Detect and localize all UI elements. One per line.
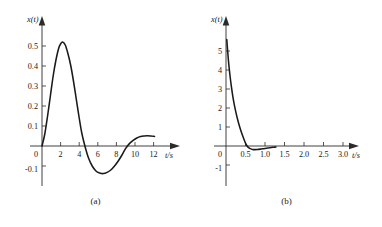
x-ticklabel-a-0: 2 [59, 150, 63, 159]
y-ticklabel-a-origin: 0 [34, 150, 38, 159]
y-ticklabel-a-neg: -0.1 [25, 165, 38, 174]
x-ticklabel-b-2: 1.5 [279, 150, 289, 159]
x-ticklabel-a-5: 12 [150, 150, 158, 159]
data-curve-b [227, 40, 276, 150]
x-ticklabel-a-3: 8 [114, 150, 118, 159]
x-ticklabel-a-4: 10 [131, 150, 139, 159]
x-ticklabel-b-3: 2.0 [299, 150, 309, 159]
x-ticklabel-b-1: 1.0 [260, 150, 270, 159]
y-ticklabel-b-origin: 0 [218, 150, 222, 159]
y-axis-arrowhead-b [223, 16, 230, 26]
y-ticklabel-b-3: 2 [218, 104, 222, 113]
x-ticklabel-b-4: 2.5 [318, 150, 328, 159]
plot-a: 0.5 0.4 0.3 0.2 0.1 0 -0.1 2 4 6 8 10 12… [0, 0, 191, 200]
panel-a: 0.5 0.4 0.3 0.2 0.1 0 -0.1 2 4 6 8 10 12… [0, 0, 191, 227]
y-ticklabel-b-neg: -1 [215, 164, 222, 173]
x-axis-label-a: t/s [165, 151, 173, 160]
x-axis-arrowhead-b [349, 143, 359, 150]
y-axis-label-b: x(t) [210, 15, 223, 24]
y-ticklabel-b-4: 1 [218, 123, 222, 132]
y-ticklabel-a-4: 0.1 [28, 122, 38, 131]
x-ticklabel-a-2: 6 [96, 150, 100, 159]
y-ticklabel-b-0: 5 [218, 47, 222, 56]
y-ticklabel-b-1: 4 [218, 66, 222, 75]
y-ticklabel-a-2: 0.3 [28, 82, 38, 91]
panel-caption-a: (a) [0, 196, 191, 206]
y-axis-arrowhead-a [39, 16, 46, 26]
y-ticklabel-a-0: 0.5 [28, 42, 38, 51]
x-ticklabel-a-1: 4 [77, 150, 81, 159]
x-axis-label-b: t/s [352, 151, 360, 160]
y-ticklabel-a-3: 0.2 [28, 102, 38, 111]
x-ticklabel-b-5: 3.0 [338, 150, 348, 159]
figure-two-panel-plots: 0.5 0.4 0.3 0.2 0.1 0 -0.1 2 4 6 8 10 12… [0, 0, 382, 227]
plot-b: 5 4 3 2 1 0 -1 0.5 1.0 1.5 2.0 2.5 3.0 x… [191, 0, 382, 200]
y-ticklabel-a-1: 0.4 [28, 62, 38, 71]
y-axis-label-a: x(t) [26, 15, 39, 24]
x-ticklabel-b-0: 0.5 [240, 150, 250, 159]
y-ticklabel-b-2: 3 [218, 85, 222, 94]
panel-caption-b: (b) [191, 196, 382, 206]
x-axis-arrowhead-a [170, 143, 180, 150]
panel-b: 5 4 3 2 1 0 -1 0.5 1.0 1.5 2.0 2.5 3.0 x… [191, 0, 382, 227]
